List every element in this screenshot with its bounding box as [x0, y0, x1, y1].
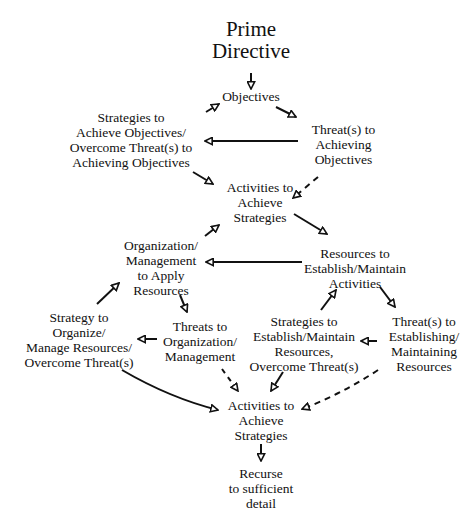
- node-label: Management: [120, 253, 202, 268]
- node-label: Maintaining: [380, 344, 468, 359]
- arrow-strategies-to-objectives: [206, 104, 219, 112]
- node-objectives: Objectives: [211, 89, 291, 104]
- prime-directive-diagram: Prime Directive Objectives Strategies to…: [0, 0, 472, 522]
- node-resources: Resources to Establish/Maintain Activiti…: [300, 246, 410, 291]
- node-label: Organization/: [120, 238, 202, 253]
- node-label: Achieve Objectives/: [56, 125, 206, 140]
- node-organization: Organization/ Management to Apply Resour…: [120, 238, 202, 298]
- node-label: to Apply: [120, 268, 202, 283]
- arrow-organization-to-activities: [205, 225, 219, 236]
- node-label: Overcome Threat(s): [246, 359, 362, 374]
- node-label: Achieving Objectives: [56, 155, 206, 170]
- node-label: Resources to: [300, 246, 410, 261]
- arrow-strategies-to-activities: [193, 172, 213, 184]
- node-label: Resources: [120, 283, 202, 298]
- node-strategies-resources: Strategies to Establish/Maintain Resourc…: [246, 314, 362, 374]
- node-threats-organization: Threats to Organization/ Management: [158, 319, 242, 364]
- node-label: Threats to: [158, 319, 242, 334]
- node-label: Strategy to: [20, 310, 138, 325]
- node-label: Overcome Threat(s) to: [56, 140, 206, 155]
- node-label: Establishing/: [380, 329, 468, 344]
- node-label: Recurse: [208, 466, 314, 481]
- node-label: Management: [158, 349, 242, 364]
- node-threats-objectives: Threat(s) to Achieving Objectives: [296, 122, 391, 167]
- arrow-strategy-organize-to-activities: [122, 370, 218, 410]
- arrow-strategy-organize-to-organization: [97, 283, 119, 304]
- node-label: Strategies to: [56, 110, 206, 125]
- title-line: Prime: [201, 18, 301, 40]
- node-label: Threat(s) to: [296, 122, 391, 137]
- node-label: Achieve: [215, 195, 305, 210]
- node-label: Objectives: [211, 89, 291, 104]
- node-label: Activities: [300, 276, 410, 291]
- node-label: Strategies: [216, 428, 306, 443]
- node-label: Establish/Maintain: [300, 261, 410, 276]
- node-recurse: Recurse to sufficient detail: [208, 466, 314, 511]
- node-label: Strategies: [215, 210, 305, 225]
- node-label: Overcome Threat(s): [20, 355, 138, 370]
- node-label: Activities to: [216, 398, 306, 413]
- node-label: Achieve: [216, 413, 306, 428]
- node-label: Organize/: [20, 325, 138, 340]
- arrow-strategies-resources-to-activities: [271, 372, 283, 391]
- node-label: Activities to: [215, 180, 305, 195]
- node-label: Objectives: [296, 152, 391, 167]
- arrow-threats-resources-to-activities-dashed: [302, 370, 378, 409]
- node-threats-resources: Threat(s) to Establishing/ Maintaining R…: [380, 314, 468, 374]
- node-strategies-objectives: Strategies to Achieve Objectives/ Overco…: [56, 110, 206, 170]
- arrow-objectives-to-threats: [276, 107, 296, 117]
- node-label: Organization/: [158, 334, 242, 349]
- node-label: Resources: [380, 359, 468, 374]
- node-prime-directive: Prime Directive: [201, 18, 301, 62]
- arrow-strategies-resources-to-resources: [321, 290, 336, 310]
- node-label: Manage Resources/: [20, 340, 138, 355]
- node-label: detail: [208, 496, 314, 511]
- node-label: Resources,: [246, 344, 362, 359]
- arrow-threats-org-to-activities-dashed: [222, 369, 238, 391]
- node-label: to sufficient: [208, 481, 314, 496]
- node-label: Achieving: [296, 137, 391, 152]
- node-label: Strategies to: [246, 314, 362, 329]
- node-label: Establish/Maintain: [246, 329, 362, 344]
- node-label: Threat(s) to: [380, 314, 468, 329]
- node-activities-2: Activities to Achieve Strategies: [216, 398, 306, 443]
- title-line: Directive: [201, 40, 301, 62]
- node-activities-1: Activities to Achieve Strategies: [215, 180, 305, 225]
- node-strategy-organize: Strategy to Organize/ Manage Resources/ …: [20, 310, 138, 370]
